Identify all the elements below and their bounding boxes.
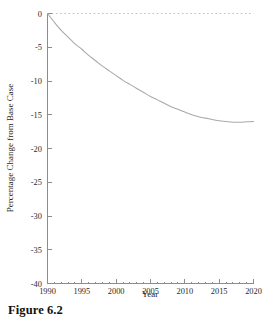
x-tick-label: 2020 [245, 287, 262, 296]
y-tick-label: -35 [31, 246, 42, 255]
x-axis-tickmarks [48, 279, 254, 284]
x-tick-label: 2015 [211, 287, 228, 296]
y-tick-label: -5 [35, 43, 42, 52]
x-tick-label: 1995 [73, 287, 90, 296]
x-tick-label: 1990 [39, 287, 56, 296]
y-tick-label: -20 [31, 145, 42, 154]
plot-area: 0-5-10-15-20-25-30-35-40 199019952000200… [31, 10, 262, 296]
x-tick-label: 2000 [108, 287, 125, 296]
y-tick-label: -25 [31, 178, 42, 187]
figure-caption: Figure 6.2 [8, 303, 63, 318]
y-tick-label: -15 [31, 111, 42, 120]
y-tick-label: -10 [31, 77, 42, 86]
y-tick-label: 0 [38, 10, 42, 19]
x-tick-label: 2010 [176, 287, 193, 296]
line-chart: 0-5-10-15-20-25-30-35-40 199019952000200… [0, 0, 267, 300]
y-axis-title: Percentage Change from Base Case [5, 84, 15, 212]
y-axis-tickmarks [48, 14, 52, 284]
y-axis-tick-labels: 0-5-10-15-20-25-30-35-40 [31, 10, 42, 289]
figure-container: 0-5-10-15-20-25-30-35-40 199019952000200… [0, 0, 267, 326]
x-axis-title: Year [142, 289, 159, 299]
data-series-line [48, 14, 254, 123]
y-tick-label: -30 [31, 212, 42, 221]
